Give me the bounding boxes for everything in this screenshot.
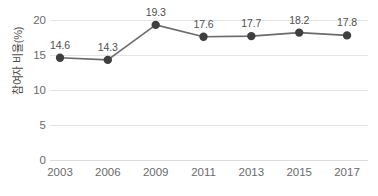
x-tick-label-2009: 2009 bbox=[143, 166, 169, 178]
x-tick-label-2003: 2003 bbox=[47, 166, 73, 178]
point-label-2013: 17.7 bbox=[241, 17, 261, 29]
point-label-2011: 17.6 bbox=[193, 18, 213, 30]
y-tick-label-10: 10 bbox=[20, 85, 46, 96]
y-tick-label-20: 20 bbox=[20, 15, 46, 26]
point-label-2003: 14.6 bbox=[50, 39, 70, 51]
point-label-2015: 18.2 bbox=[289, 14, 309, 26]
y-axis-tick-labels: 20 15 10 5 0 bbox=[20, 0, 46, 196]
point-label-2017: 17.8 bbox=[337, 16, 357, 28]
x-tick-label-2017: 2017 bbox=[334, 166, 360, 178]
point-label-2006: 14.3 bbox=[98, 41, 118, 53]
x-tick-label-2011: 2011 bbox=[191, 166, 216, 178]
x-tick-label-2015: 2015 bbox=[286, 166, 312, 178]
y-tick-label-0: 0 bbox=[20, 155, 46, 166]
x-tick-label-2006: 2006 bbox=[95, 166, 121, 178]
point-label-2009: 19.3 bbox=[146, 6, 166, 18]
y-tick-label-15: 15 bbox=[20, 50, 46, 61]
y-tick-label-5: 5 bbox=[20, 120, 46, 131]
axis-label-layer: 14.6 14.3 19.3 17.6 17.7 18.2 17.8 2003 … bbox=[50, 0, 368, 196]
line-chart: 참여자 비율(%) 20 15 10 5 0 14.6 14.3 19.3 17… bbox=[0, 0, 378, 196]
x-tick-label-2013: 2013 bbox=[239, 166, 265, 178]
